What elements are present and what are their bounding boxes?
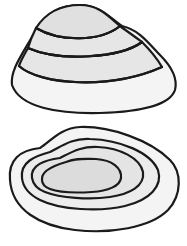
shell-diagram	[0, 0, 187, 246]
bottom-shell-top-view	[10, 127, 179, 231]
top-shell-side-view	[12, 5, 176, 113]
shell-illustrations	[0, 0, 187, 246]
